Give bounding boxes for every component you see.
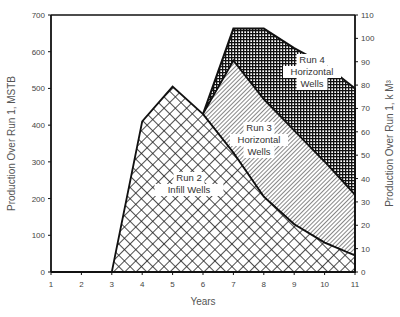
x-tick-label: 5 xyxy=(170,280,175,289)
x-tick-label: 8 xyxy=(262,280,267,289)
production-chart: 0100200300400500600700010203040506070809… xyxy=(0,0,400,317)
svg-text:Run 4: Run 4 xyxy=(299,54,324,65)
x-axis-label: Years xyxy=(190,296,215,307)
y-right-tick-label: 40 xyxy=(361,175,370,184)
x-tick-label: 1 xyxy=(49,280,54,289)
y-right-tick-label: 60 xyxy=(361,128,370,137)
svg-text:Run 3: Run 3 xyxy=(246,122,271,133)
y-right-tick-label: 70 xyxy=(361,104,370,113)
svg-text:Horizontal: Horizontal xyxy=(291,66,334,77)
y-tick-label: 600 xyxy=(32,48,46,57)
svg-text:Wells: Wells xyxy=(247,146,270,157)
y-right-tick-label: 0 xyxy=(361,268,366,277)
y-right-tick-label: 110 xyxy=(361,11,374,20)
y-tick-label: 300 xyxy=(32,158,46,167)
x-tick-label: 2 xyxy=(79,280,84,289)
svg-text:Infill Wells: Infill Wells xyxy=(168,184,211,195)
x-tick-label: 4 xyxy=(140,280,145,289)
svg-text:Wells: Wells xyxy=(300,78,323,89)
y-tick-label: 100 xyxy=(32,231,46,240)
svg-text:Horizontal: Horizontal xyxy=(238,134,281,145)
y-tick-label: 200 xyxy=(32,195,46,204)
y-right-tick-label: 90 xyxy=(361,58,370,67)
y-right-tick-label: 20 xyxy=(361,221,370,230)
x-tick-label: 3 xyxy=(110,280,115,289)
y-tick-label: 0 xyxy=(41,268,46,277)
y-tick-label: 500 xyxy=(32,84,46,93)
x-tick-label: 6 xyxy=(201,280,206,289)
y-axis-label: Production Over Run 1, MSTB xyxy=(6,76,17,211)
x-tick-label: 9 xyxy=(292,280,297,289)
y-right-tick-label: 50 xyxy=(361,151,370,160)
y-axis-right-label: Production Over Run 1, k M³ xyxy=(384,79,395,206)
y-right-tick-label: 30 xyxy=(361,198,370,207)
x-tick-label: 11 xyxy=(351,280,360,289)
y-right-tick-label: 10 xyxy=(361,245,370,254)
y-right-tick-label: 80 xyxy=(361,81,370,90)
y-tick-label: 400 xyxy=(32,121,46,130)
y-right-tick-label: 100 xyxy=(361,34,375,43)
x-tick-label: 10 xyxy=(320,280,329,289)
svg-text:Run 2: Run 2 xyxy=(176,172,201,183)
y-tick-label: 700 xyxy=(32,11,46,20)
x-tick-label: 7 xyxy=(231,280,236,289)
